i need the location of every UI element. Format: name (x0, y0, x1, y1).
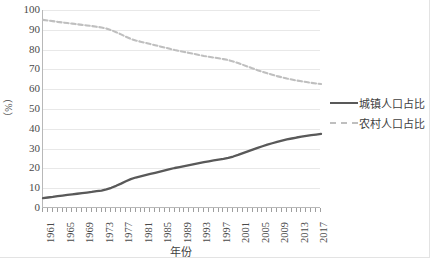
x-axis-tick-label: 2001 (241, 222, 252, 243)
x-axis-tick (286, 208, 287, 212)
x-axis-tick (154, 208, 155, 212)
x-axis-tick (247, 208, 248, 212)
x-axis-tick (76, 208, 77, 212)
x-axis-tick (193, 208, 194, 212)
x-axis-tick-label: 2009 (280, 222, 291, 243)
y-axis-tick-label: 20 (4, 162, 40, 173)
y-axis-tick-label: 60 (4, 83, 40, 94)
x-axis-tick (315, 208, 316, 212)
x-axis-tick-label: 1981 (144, 222, 155, 243)
x-axis-tick (208, 208, 209, 212)
x-axis-tick (296, 208, 297, 212)
y-axis-tick-label: 100 (4, 4, 40, 15)
x-axis-title: 年份 (42, 243, 320, 259)
x-axis-tick (164, 208, 165, 212)
y-axis-tick-label: 10 (4, 182, 40, 193)
x-axis-tick (174, 208, 175, 212)
x-axis-tick-label: 1973 (105, 222, 116, 243)
y-axis-tick-label: 0 (4, 202, 40, 213)
x-axis-tick-label: 2005 (261, 222, 272, 243)
y-axis-tick-label: 50 (4, 103, 40, 114)
x-axis-tick (101, 208, 102, 212)
x-axis-tick (232, 208, 233, 212)
x-axis-tick (62, 208, 63, 212)
x-axis-tick (120, 208, 121, 212)
x-axis-tick (86, 208, 87, 212)
x-axis-tick (71, 208, 72, 212)
x-axis-tick (188, 208, 189, 212)
x-axis-tick (125, 208, 126, 212)
x-axis-tick-label: 1985 (163, 222, 174, 243)
x-axis-tick (42, 208, 43, 212)
legend-item[interactable]: 城镇人口占比 (330, 93, 432, 113)
series-lines (43, 10, 321, 208)
x-axis-tick (144, 208, 145, 212)
x-axis-tick (222, 208, 223, 212)
chart-legend: 城镇人口占比农村人口占比 (330, 93, 432, 133)
x-axis-tick (96, 208, 97, 212)
series-line (43, 20, 321, 84)
y-axis-tick-label: 70 (4, 63, 40, 74)
x-axis-tick (266, 208, 267, 212)
x-axis-tick-label: 1997 (222, 222, 233, 243)
x-axis-tick-label: 2017 (319, 222, 330, 243)
x-axis-tick-label: 1977 (124, 222, 135, 243)
x-axis-tick (300, 208, 301, 212)
x-axis-tick (271, 208, 272, 212)
x-axis-tick (281, 208, 282, 212)
x-axis-tick (149, 208, 150, 212)
legend-item[interactable]: 农村人口占比 (330, 113, 432, 133)
x-axis-tick (179, 208, 180, 212)
x-axis-tick (159, 208, 160, 212)
x-axis-tick (257, 208, 258, 212)
legend-label: 农村人口占比 (358, 115, 425, 131)
x-axis-tick-label: 1969 (85, 222, 96, 243)
x-axis-tick (242, 208, 243, 212)
x-axis-tick (305, 208, 306, 212)
x-axis-tick (261, 208, 262, 212)
legend-swatch (330, 118, 358, 128)
legend-label: 城镇人口占比 (358, 95, 425, 111)
x-axis-tick (52, 208, 53, 212)
x-axis-tick (140, 208, 141, 212)
x-axis-tick (57, 208, 58, 212)
x-axis-tick (130, 208, 131, 212)
x-axis-tick (203, 208, 204, 212)
x-axis-tick-label: 1989 (183, 222, 194, 243)
x-axis-tick (105, 208, 106, 212)
x-axis-tick (237, 208, 238, 212)
x-axis-tick (115, 208, 116, 212)
x-axis-tick (291, 208, 292, 212)
y-axis-tick-labels: 1009080706050403020100 (0, 0, 40, 218)
legend-swatch (330, 98, 358, 108)
y-axis-tick-label: 30 (4, 143, 40, 154)
x-axis-tick (198, 208, 199, 212)
x-axis-tick (110, 208, 111, 212)
x-axis-tick (81, 208, 82, 212)
x-axis-tick-labels: 1961196519691973197719811985198919931997… (42, 213, 320, 245)
x-axis-tick (169, 208, 170, 212)
x-axis-tick (47, 208, 48, 212)
x-axis-tick (320, 208, 321, 212)
y-axis-tick-label: 40 (4, 123, 40, 134)
series-line (43, 134, 321, 198)
x-axis-tick (276, 208, 277, 212)
x-axis-tick-label: 2013 (300, 222, 311, 243)
y-axis-tick-label: 80 (4, 44, 40, 55)
x-axis-tick (183, 208, 184, 212)
x-axis-tick (252, 208, 253, 212)
x-axis-tick (227, 208, 228, 212)
x-axis-tick (213, 208, 214, 212)
x-axis-tick (218, 208, 219, 212)
x-axis-tick-label: 1993 (202, 222, 213, 243)
x-axis-tick (310, 208, 311, 212)
x-axis-tick-label: 1965 (66, 222, 77, 243)
x-axis-tick (66, 208, 67, 212)
y-axis-tick-label: 90 (4, 24, 40, 35)
x-axis-tick-label: 1961 (46, 222, 57, 243)
x-axis-tick (91, 208, 92, 212)
plot-area (42, 10, 320, 208)
x-axis-tick (135, 208, 136, 212)
line-chart: （%） 1009080706050403020100 1961196519691… (0, 0, 434, 265)
